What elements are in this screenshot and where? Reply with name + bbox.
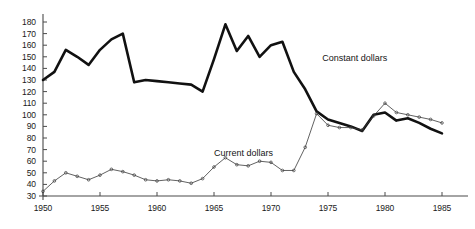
- y-tick-label: 160: [0, 40, 36, 50]
- y-tick-label: 30: [0, 191, 36, 201]
- series-line-0: [43, 24, 442, 133]
- x-tick-label: 1960: [148, 203, 167, 213]
- y-tick-label: 60: [0, 156, 36, 166]
- y-tick-label: 180: [0, 17, 36, 27]
- y-tick-label: 40: [0, 179, 36, 189]
- y-tick-label: 120: [0, 87, 36, 97]
- x-tick-label: 1985: [433, 203, 452, 213]
- x-tick-label: 1950: [34, 203, 53, 213]
- y-tick-label: 170: [0, 29, 36, 39]
- series-group: [42, 24, 444, 192]
- axis-group: [39, 14, 468, 200]
- y-tick-label: 150: [0, 52, 36, 62]
- x-tick-label: 1970: [262, 203, 281, 213]
- chart-container: 3040506070809010011012013014015016017018…: [0, 0, 475, 229]
- x-tick-label: 1980: [376, 203, 395, 213]
- y-tick-label: 130: [0, 75, 36, 85]
- y-tick-label: 90: [0, 121, 36, 131]
- x-tick-label: 1965: [205, 203, 224, 213]
- series-label-0: Constant dollars: [322, 53, 387, 63]
- series-label-1: Current dollars: [214, 148, 273, 158]
- chart-plot-area: [0, 0, 475, 229]
- y-tick-label: 70: [0, 145, 36, 155]
- y-tick-label: 140: [0, 63, 36, 73]
- x-tick-label: 1955: [91, 203, 110, 213]
- y-tick-label: 100: [0, 110, 36, 120]
- y-tick-label: 50: [0, 168, 36, 178]
- y-tick-label: 110: [0, 98, 36, 108]
- x-tick-label: 1975: [319, 203, 338, 213]
- y-tick-label: 80: [0, 133, 36, 143]
